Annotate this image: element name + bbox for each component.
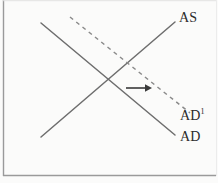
- shift-arrow-head: [145, 84, 152, 92]
- shifted-aggregate-demand-label: AD1: [180, 109, 205, 123]
- aggregate-demand-label: AD: [180, 130, 200, 144]
- as-ad-diagram: AS AD1 AD: [0, 0, 218, 183]
- shift-arrow: [126, 84, 152, 92]
- diagram-canvas: [0, 0, 218, 183]
- shifted-aggregate-demand-label-superscript: 1: [200, 107, 204, 116]
- shifted-aggregate-demand-curve: [70, 17, 190, 113]
- shifted-aggregate-demand-label-base: AD: [180, 108, 200, 123]
- aggregate-supply-label: AS: [179, 11, 197, 25]
